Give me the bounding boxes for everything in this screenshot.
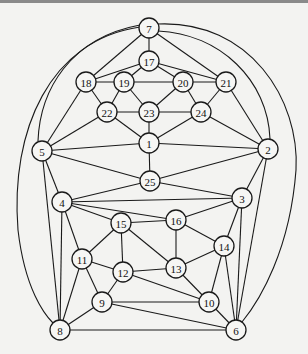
edge-5-1: [42, 143, 149, 151]
node-label: 3: [239, 193, 245, 205]
node-18: 18: [76, 72, 96, 92]
graph-nodes: 1234567891011121314151617181920212223242…: [32, 18, 278, 340]
node-7: 7: [139, 18, 159, 38]
node-label: 2: [265, 144, 271, 156]
edge-1-2: [149, 143, 268, 149]
graph-diagram: 1234567891011121314151617181920212223242…: [0, 0, 308, 354]
node-label: 5: [39, 146, 45, 158]
edge-2-25: [150, 149, 268, 181]
node-16: 16: [166, 210, 186, 230]
edge-5-8: [42, 151, 60, 330]
node-label: 9: [99, 297, 105, 309]
node-label: 25: [145, 176, 157, 188]
edge-12-10: [123, 272, 209, 302]
node-8: 8: [50, 320, 70, 340]
node-25: 25: [140, 171, 160, 191]
node-22: 22: [97, 102, 117, 122]
node-label: 24: [196, 107, 208, 119]
node-label: 19: [119, 77, 131, 89]
node-label: 21: [221, 77, 232, 89]
edge-4-3: [62, 198, 242, 202]
node-label: 23: [144, 107, 156, 119]
node-1: 1: [139, 133, 159, 153]
node-label: 16: [171, 215, 183, 227]
node-label: 14: [219, 241, 231, 253]
node-label: 7: [146, 23, 152, 35]
node-11: 11: [72, 249, 92, 269]
node-label: 17: [144, 56, 156, 68]
node-label: 13: [171, 263, 183, 275]
node-label: 8: [57, 325, 63, 337]
node-label: 6: [233, 325, 239, 337]
node-label: 4: [59, 197, 65, 209]
node-label: 10: [204, 297, 216, 309]
node-23: 23: [139, 102, 159, 122]
node-17: 17: [139, 51, 159, 71]
edge-14-6: [224, 246, 236, 330]
node-21: 21: [216, 72, 236, 92]
node-13: 13: [166, 258, 186, 278]
edge-4-8: [60, 202, 62, 330]
edge-15-13: [121, 223, 176, 268]
node-12: 12: [113, 262, 133, 282]
node-5: 5: [32, 141, 52, 161]
edge-2-6: [236, 149, 268, 330]
node-6: 6: [226, 320, 246, 340]
node-9: 9: [92, 292, 112, 312]
node-10: 10: [199, 292, 219, 312]
edge-4-25: [62, 181, 150, 202]
edge-2-24: [201, 112, 268, 149]
edge-5-22: [42, 112, 107, 151]
node-20: 20: [173, 72, 193, 92]
node-label: 15: [116, 218, 128, 230]
node-label: 18: [81, 77, 93, 89]
edge-3-25: [150, 181, 242, 198]
node-2: 2: [258, 139, 278, 159]
node-label: 12: [118, 267, 129, 279]
node-label: 20: [178, 77, 190, 89]
edge-5-25: [42, 151, 150, 181]
node-14: 14: [214, 236, 234, 256]
node-label: 22: [102, 107, 113, 119]
edge-11-8: [60, 259, 82, 330]
node-19: 19: [114, 72, 134, 92]
node-15: 15: [111, 213, 131, 233]
node-label: 1: [146, 138, 152, 150]
node-24: 24: [191, 102, 211, 122]
node-3: 3: [232, 188, 252, 208]
node-label: 11: [77, 254, 88, 266]
node-4: 4: [52, 192, 72, 212]
edge-21-2: [226, 82, 268, 149]
